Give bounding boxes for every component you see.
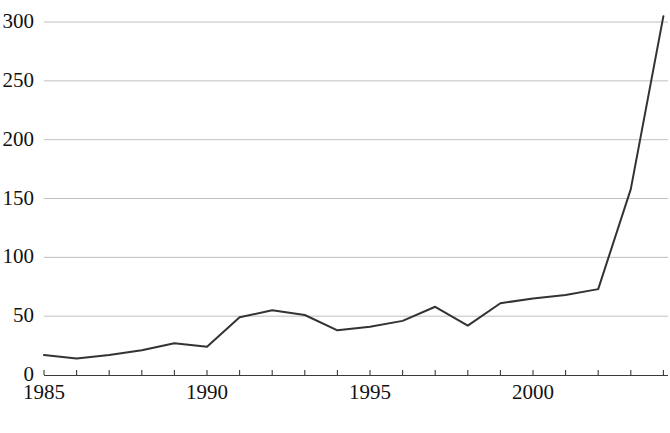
y-axis-tick-label: 100 — [0, 246, 34, 267]
chart-plot-area — [0, 0, 670, 433]
y-axis-tick-label: 250 — [0, 70, 34, 91]
x-tick-marks-group — [44, 370, 663, 375]
y-axis-tick-label: 200 — [0, 129, 34, 150]
y-axis-tick-label: 50 — [0, 305, 34, 326]
x-axis-tick-label: 2000 — [503, 382, 563, 403]
y-axis-tick-label: 300 — [0, 11, 34, 32]
x-axis-tick-label: 1985 — [14, 382, 74, 403]
gridlines-group — [44, 22, 668, 316]
x-axis-tick-label: 1995 — [340, 382, 400, 403]
x-axis-tick-label: 1990 — [177, 382, 237, 403]
y-axis-tick-label: 150 — [0, 188, 34, 209]
line-chart: 050100150200250300 1985199019952000 — [0, 0, 670, 433]
data-series-line — [44, 16, 663, 358]
